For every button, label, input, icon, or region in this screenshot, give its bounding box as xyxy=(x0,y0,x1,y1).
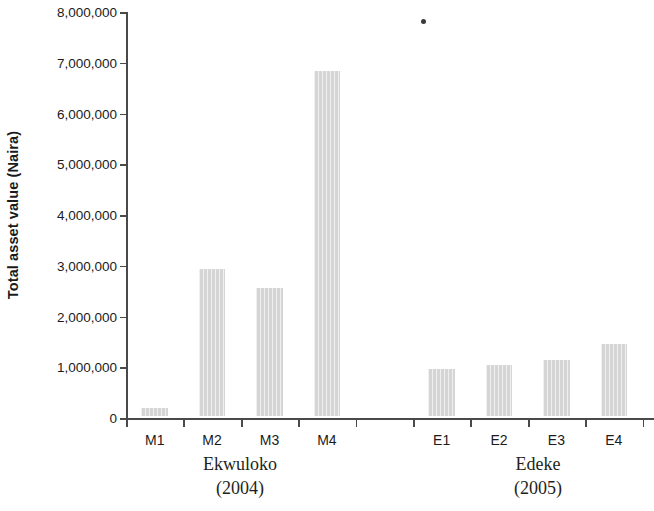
x-axis-line xyxy=(126,418,654,420)
group-label-ekwuloko-name: Ekwuloko xyxy=(203,454,277,474)
group-label-edeke-year: (2005) xyxy=(448,476,628,500)
x-axis-category-label: M4 xyxy=(298,432,355,448)
x-axis-category-label: M1 xyxy=(126,432,183,448)
x-axis-tick-mark xyxy=(413,418,415,427)
y-axis-tick-mark xyxy=(120,317,127,319)
x-axis-category-label: E3 xyxy=(528,432,585,448)
x-axis-category-label: E4 xyxy=(585,432,642,448)
group-label-edeke-name: Edeke xyxy=(516,454,561,474)
group-label-ekwuloko-year: (2004) xyxy=(150,476,330,500)
group-label-ekwuloko: Ekwuloko (2004) xyxy=(150,452,330,501)
bar xyxy=(314,71,340,416)
x-axis-tick-mark xyxy=(528,418,530,427)
y-axis-tick-label: 0 xyxy=(109,411,117,426)
y-axis-tick-mark xyxy=(120,164,127,166)
x-axis-tick-mark xyxy=(585,418,587,427)
x-axis-category-label: E1 xyxy=(413,432,470,448)
y-axis-tick-label: 4,000,000 xyxy=(57,208,117,223)
x-axis-tick-mark xyxy=(298,418,300,427)
bar xyxy=(601,344,627,416)
y-axis-tick-mark xyxy=(120,266,127,268)
bar xyxy=(486,365,512,416)
bar xyxy=(428,369,454,416)
x-axis-tick-mark xyxy=(241,418,243,427)
x-axis-tick-mark xyxy=(470,418,472,427)
bar xyxy=(199,269,225,416)
x-axis-tick-mark xyxy=(643,418,645,427)
y-axis-tick-label: 5,000,000 xyxy=(57,157,117,172)
y-axis-tick-mark xyxy=(120,114,127,116)
y-axis-tick-mark xyxy=(120,12,127,14)
x-axis-tick-mark xyxy=(183,418,185,427)
stray-dot-artifact xyxy=(421,19,426,24)
y-axis-tick-label: 7,000,000 xyxy=(57,55,117,70)
x-axis-category-label: E2 xyxy=(470,432,527,448)
bar-chart-figure: Total asset value (Naira) 01,000,0002,00… xyxy=(0,0,654,511)
y-axis-tick-mark xyxy=(120,63,127,65)
y-axis-tick-label: 3,000,000 xyxy=(57,258,117,273)
x-axis-tick-mark xyxy=(126,418,128,427)
y-axis-tick-label: 1,000,000 xyxy=(57,360,117,375)
y-axis-tick-label: 2,000,000 xyxy=(57,309,117,324)
y-axis-title-text: Total asset value (Naira) xyxy=(5,131,21,299)
x-axis-category-label: M3 xyxy=(241,432,298,448)
y-axis-title: Total asset value (Naira) xyxy=(0,0,26,430)
x-axis-category-label: M2 xyxy=(183,432,240,448)
group-label-edeke: Edeke (2005) xyxy=(448,452,628,501)
x-axis-tick-mark xyxy=(356,418,358,427)
bar xyxy=(141,408,167,416)
y-axis-tick-label: 6,000,000 xyxy=(57,106,117,121)
y-axis-tick-mark xyxy=(120,367,127,369)
plot-area: 01,000,0002,000,0003,000,0004,000,0005,0… xyxy=(126,12,654,418)
bar xyxy=(256,288,282,416)
y-axis-tick-mark xyxy=(120,215,127,217)
bar xyxy=(543,360,569,416)
y-axis-tick-label: 8,000,000 xyxy=(57,5,117,20)
